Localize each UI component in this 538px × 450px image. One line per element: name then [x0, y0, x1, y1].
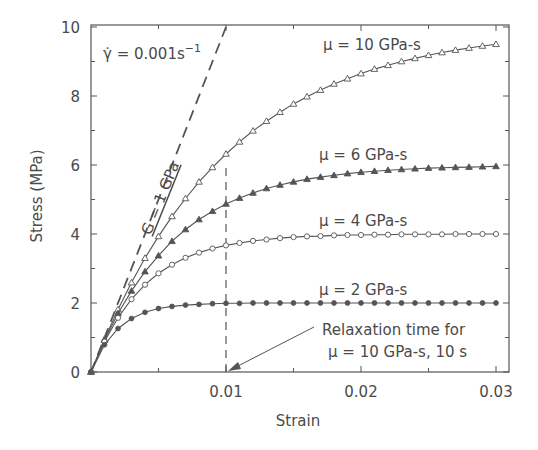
data-point-marker — [494, 301, 499, 306]
data-point-marker — [156, 271, 161, 276]
data-point-marker — [143, 310, 148, 315]
y-tick-label: 2 — [70, 295, 80, 313]
data-point-marker — [304, 234, 309, 239]
data-point-marker — [493, 163, 500, 169]
data-point-marker — [305, 301, 310, 306]
relaxation-label-line2: μ = 10 GPa-s, 10 s — [328, 343, 467, 361]
data-point-marker — [250, 238, 255, 243]
data-point-marker — [493, 231, 498, 236]
data-point-marker — [466, 231, 471, 236]
data-point-marker — [318, 233, 323, 238]
data-point-marker — [89, 370, 94, 375]
data-point-marker — [493, 41, 500, 47]
data-point-marker — [197, 302, 202, 307]
relaxation-label-line1: Relaxation time for — [322, 321, 466, 339]
data-point-marker — [385, 232, 390, 237]
data-point-marker — [277, 109, 284, 115]
x-tick-label: 0.03 — [479, 383, 512, 401]
data-point-marker — [251, 301, 256, 306]
data-point-marker — [183, 255, 188, 260]
data-point-marker — [263, 118, 270, 124]
data-point-marker — [210, 246, 215, 251]
y-tick-label: 4 — [70, 226, 80, 244]
data-point-marker — [426, 232, 431, 237]
data-point-marker — [453, 301, 458, 306]
modulus-line-label: G = 1 GPa — [138, 159, 184, 237]
data-point-marker — [440, 301, 445, 306]
data-point-marker — [196, 216, 203, 222]
strain-rate-text: γ̇ = 0.001s — [103, 45, 185, 63]
data-point-marker — [359, 301, 364, 306]
y-tick-label: 6 — [70, 157, 80, 175]
data-point-marker — [358, 232, 363, 237]
data-point-marker — [277, 236, 282, 241]
x-tick-label: 0.02 — [344, 383, 377, 401]
data-point-marker — [345, 232, 350, 237]
data-point-marker — [453, 231, 458, 236]
data-point-marker — [142, 255, 149, 261]
relaxation-arrow — [228, 327, 314, 371]
data-point-marker — [412, 232, 417, 237]
data-point-marker — [250, 128, 257, 134]
stress-strain-chart: 0.010.020.03 0246810 Strain Stress (MPa)… — [0, 0, 538, 450]
data-point-marker — [182, 226, 189, 232]
data-point-marker — [386, 301, 391, 306]
data-point-marker — [115, 315, 120, 320]
y-tick-label: 10 — [61, 19, 80, 37]
mu2-label: μ = 2 GPa-s — [319, 281, 408, 299]
data-point-marker — [237, 240, 242, 245]
data-point-marker — [102, 342, 107, 347]
y-axis-title: Stress (MPa) — [28, 149, 46, 242]
data-point-marker — [169, 262, 174, 267]
strain-rate-superscript: −1 — [185, 42, 201, 55]
data-point-marker — [128, 279, 135, 285]
data-point-marker — [332, 301, 337, 306]
data-point-marker — [223, 243, 228, 248]
data-point-marker — [345, 301, 350, 306]
strain-rate-label: γ̇ = 0.001s−1 — [103, 42, 201, 63]
data-point-marker — [290, 101, 297, 107]
data-point-marker — [129, 316, 134, 321]
data-point-marker — [116, 326, 121, 331]
data-point-marker — [372, 301, 377, 306]
x-tick-label: 0.01 — [209, 383, 242, 401]
data-point-marker — [264, 237, 269, 242]
data-point-marker — [331, 233, 336, 238]
data-point-marker — [183, 303, 188, 308]
data-point-marker — [413, 301, 418, 306]
data-point-marker — [467, 301, 472, 306]
mu4-label: μ = 4 GPa-s — [319, 212, 408, 230]
data-point-marker — [170, 304, 175, 309]
data-point-marker — [399, 232, 404, 237]
data-point-marker — [209, 208, 216, 214]
x-axis-title: Strain — [276, 412, 320, 430]
data-point-marker — [224, 301, 229, 306]
data-point-marker — [480, 231, 485, 236]
data-point-marker — [196, 250, 201, 255]
data-point-marker — [372, 232, 377, 237]
data-point-marker — [156, 306, 161, 311]
mu6-label: μ = 6 GPa-s — [319, 146, 408, 164]
data-point-marker — [291, 301, 296, 306]
y-tick-label: 8 — [70, 88, 80, 106]
data-point-marker — [237, 301, 242, 306]
data-point-marker — [142, 282, 147, 287]
data-point-marker — [278, 301, 283, 306]
data-point-marker — [291, 235, 296, 240]
mu10-label: μ = 10 GPa-s — [323, 36, 421, 54]
arrowhead-icon — [228, 362, 241, 371]
data-point-marker — [439, 232, 444, 237]
data-point-marker — [304, 93, 311, 99]
y-tick-label: 0 — [70, 364, 80, 382]
data-point-marker — [264, 301, 269, 306]
data-point-marker — [426, 301, 431, 306]
data-point-marker — [129, 297, 134, 302]
data-point-marker — [399, 301, 404, 306]
data-point-marker — [318, 301, 323, 306]
data-point-marker — [480, 301, 485, 306]
data-point-marker — [210, 301, 215, 306]
